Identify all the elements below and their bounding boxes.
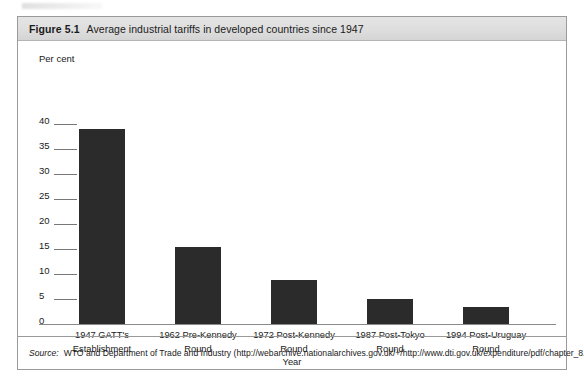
y-axis-tick-mark <box>54 224 77 225</box>
y-axis-tick-label: 5 <box>39 291 54 301</box>
y-axis-tick: 25 <box>39 189 77 201</box>
y-axis-tick-label: 25 <box>39 191 54 201</box>
figure-number: Figure 5.1 <box>29 23 80 35</box>
y-axis-tick-label: 15 <box>39 241 54 251</box>
y-axis-title: Per cent <box>39 53 74 64</box>
y-axis-tick: 5 <box>39 289 77 301</box>
y-axis-tick: 20 <box>39 214 77 226</box>
bar <box>175 247 221 325</box>
scan-artifact <box>22 3 102 9</box>
y-axis-tick-mark <box>54 199 77 200</box>
bar <box>271 280 317 324</box>
y-axis-tick-mark <box>54 249 77 250</box>
chart-plot-area: Per cent 0510152025303540 1947 GATT'sEst… <box>18 41 566 336</box>
y-axis-tick-label: 20 <box>39 216 54 226</box>
figure-title: Average industrial tariffs in developed … <box>87 23 364 35</box>
bar <box>367 299 413 324</box>
bars-group <box>77 41 557 324</box>
y-axis-tick-mark <box>54 299 77 300</box>
y-axis-tick-mark <box>54 124 77 125</box>
x-axis-baseline <box>39 324 556 325</box>
y-axis-tick: 15 <box>39 239 77 251</box>
bar <box>79 129 125 324</box>
source-label: Source: <box>29 348 59 358</box>
figure-container: Figure 5.1 Average industrial tariffs in… <box>17 16 567 370</box>
y-axis-tick-mark <box>54 149 77 150</box>
y-axis-tick-label: 35 <box>39 141 54 151</box>
figure-header: Figure 5.1 Average industrial tariffs in… <box>18 17 566 41</box>
bar <box>463 307 509 325</box>
y-axis-tick: 40 <box>39 114 77 126</box>
y-axis-tick: 10 <box>39 264 77 276</box>
y-axis-tick-label: 30 <box>39 166 54 176</box>
y-axis-tick-mark <box>54 274 77 275</box>
y-axis-tick: 30 <box>39 164 77 176</box>
y-axis-tick-mark <box>54 174 77 175</box>
figure-source-footer: Source: WTO and Department of Trade and … <box>18 336 566 369</box>
source-text: WTO and Department of Trade and Industry… <box>64 348 584 358</box>
y-axis-tick-label: 10 <box>39 266 54 276</box>
y-axis-tick: 35 <box>39 139 77 151</box>
y-axis-tick-label: 40 <box>39 116 54 126</box>
